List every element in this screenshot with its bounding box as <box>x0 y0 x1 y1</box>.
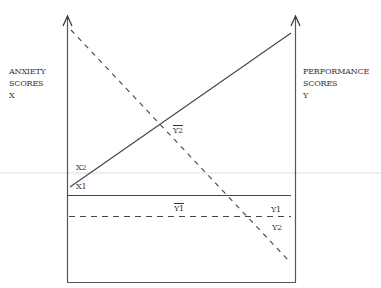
x1-label: X1 <box>76 182 86 192</box>
left-axis-label-line3: X <box>9 91 15 101</box>
left-axis-label-line2: SCORES <box>9 79 43 89</box>
y1-mean-label: Y1 <box>174 204 184 214</box>
y1-label: Y1 <box>271 205 281 215</box>
diagram-canvas <box>0 0 381 288</box>
right-axis-label-line2: SCORES <box>303 79 337 89</box>
y2-mean-label: Y2 <box>173 126 183 136</box>
y2-label: Y2 <box>272 223 282 233</box>
left-axis-label-line1: ANXIETY <box>9 67 46 77</box>
right-axis-label-line3: Y <box>303 91 308 101</box>
right-axis-label-line1: PERFORMANCE <box>303 67 369 77</box>
y2-line <box>71 30 290 262</box>
x2-line <box>70 33 291 187</box>
x2-label: X2 <box>76 163 86 173</box>
